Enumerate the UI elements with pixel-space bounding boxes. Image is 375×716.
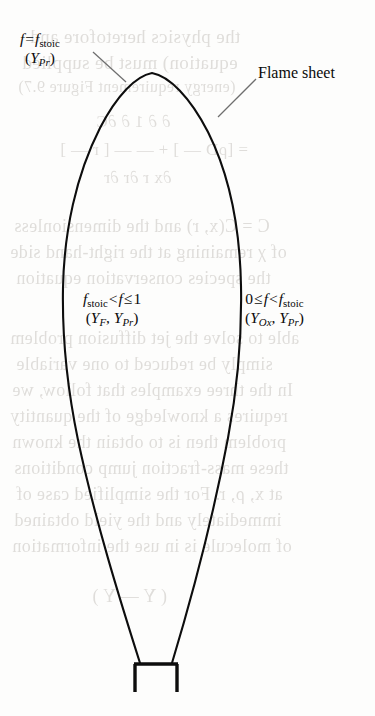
value-zero-outer: 0	[245, 290, 253, 307]
symbol-Y-oxidizer: Y	[250, 309, 259, 326]
subscript-stoic: stoic	[39, 37, 59, 49]
subscript-stoic-inner: stoic	[87, 297, 107, 309]
paren-close-outer: )	[299, 309, 304, 326]
paren-close-inner: )	[133, 309, 138, 326]
symbol-Y-products-outer: Y	[279, 309, 288, 326]
comma-outer: ,	[271, 309, 275, 326]
label-stoichiometric-line1: f=fstoic	[20, 30, 60, 49]
subscript-Pr: Pr	[39, 56, 50, 68]
burner-tube	[134, 664, 178, 692]
subscript-Pr-inner: Pr	[122, 316, 133, 328]
flame-sheet-outline	[63, 73, 241, 663]
value-one-inner: 1	[133, 290, 141, 307]
label-inner-region-line2: (YF, YPr)	[83, 309, 141, 328]
subscript-Pr-outer: Pr	[288, 316, 299, 328]
label-outer-region: 0≤f<fstoic (YOx, YPr)	[245, 290, 304, 328]
label-flame-sheet-text: Flame sheet	[258, 64, 335, 82]
leader-line-stoichiometric	[93, 52, 126, 82]
comma-inner: ,	[106, 309, 110, 326]
symbol-less-than-inner: <	[108, 290, 119, 307]
subscript-stoic-outer: stoic	[283, 297, 303, 309]
symbol-Y: Y	[30, 49, 39, 66]
leader-line-flame-sheet	[218, 79, 256, 117]
symbol-less-equal-outer: ≤	[253, 290, 264, 307]
symbol-equals: =	[24, 30, 35, 47]
label-stoichiometric-fraction: f=fstoic (YPr)	[20, 30, 60, 68]
paren-close: )	[50, 49, 55, 66]
label-stoichiometric-line2: (YPr)	[20, 49, 60, 68]
subscript-Ox: Ox	[259, 316, 272, 328]
label-outer-region-line2: (YOx, YPr)	[245, 309, 304, 328]
label-flame-sheet: Flame sheet	[258, 64, 335, 82]
symbol-less-equal-inner: ≤	[123, 290, 134, 307]
label-outer-region-line1: 0≤f<fstoic	[245, 290, 304, 309]
flame-diagram-svg	[0, 0, 375, 716]
label-inner-region-line1: fstoic<f≤1	[83, 290, 141, 309]
figure-container: the physics heretofore andequation) must…	[0, 0, 375, 716]
label-inner-region: fstoic<f≤1 (YF, YPr)	[83, 290, 141, 328]
symbol-less-than-outer: <	[268, 290, 279, 307]
